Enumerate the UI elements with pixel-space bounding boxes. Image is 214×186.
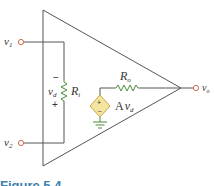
ro-label: Ro [119,69,131,84]
output-terminal[interactable] [193,85,198,90]
source-plus-sign: + [97,99,101,106]
vd-minus-sign: − [53,72,59,83]
input-resistor-ri [61,80,67,101]
op-amp-circuit-diagram: − vd + Ri Ro vo v1 v2 + − Avd [0,0,214,186]
input2-terminal[interactable] [18,140,23,145]
source-minus-sign: − [98,108,102,115]
ground-icon [93,117,107,128]
vo-label: vo [202,82,209,94]
output-resistor-ro [114,85,140,91]
avd-label: Avd [115,99,134,114]
figure-caption: Figure 5.4 [0,178,61,186]
v1-label: v1 [4,35,12,49]
v2-label: v2 [4,136,13,150]
vd-plus-sign: + [52,99,58,110]
vd-label: vd [48,85,57,99]
ri-label: Ri [70,84,80,99]
input1-terminal[interactable] [18,39,23,44]
